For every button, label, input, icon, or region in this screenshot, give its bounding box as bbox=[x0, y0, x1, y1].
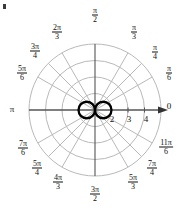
denominator: 3 bbox=[128, 182, 138, 191]
numerator: 5π bbox=[128, 174, 138, 182]
numerator: 2π bbox=[52, 24, 62, 32]
denominator: 4 bbox=[30, 51, 40, 60]
numerator: 11π bbox=[159, 139, 173, 147]
polar-plot-figure: 0 π 2 3 4 π 2 2π 3 3π 4 5π 6 π 3 π 4 π 6… bbox=[0, 0, 188, 210]
angle-label-7pi-4: 7π 4 bbox=[147, 160, 157, 177]
numerator: π bbox=[131, 24, 137, 32]
denominator: 2 bbox=[92, 15, 98, 24]
angle-label-7pi-6: 7π 6 bbox=[18, 140, 28, 157]
polar-axes bbox=[29, 44, 168, 176]
denominator: 6 bbox=[159, 147, 173, 156]
angle-label-3pi-4: 3π 4 bbox=[30, 43, 40, 60]
denominator: 6 bbox=[17, 73, 27, 82]
angle-label-pi: π bbox=[10, 105, 15, 114]
corner-artifact-mark bbox=[3, 4, 6, 9]
denominator: 6 bbox=[166, 73, 172, 82]
numerator: 3π bbox=[30, 43, 40, 51]
radial-tick-label-3: 3 bbox=[127, 115, 132, 124]
angle-label-11pi-6: 11π 6 bbox=[159, 139, 173, 156]
denominator: 2 bbox=[90, 194, 100, 203]
numerator: π bbox=[92, 7, 98, 15]
angle-label-5pi-3: 5π 3 bbox=[128, 174, 138, 191]
numerator: 5π bbox=[32, 160, 42, 168]
numerator: 3π bbox=[90, 186, 100, 194]
radial-tick-label-2: 2 bbox=[110, 115, 115, 124]
angle-label-pi-2: π 2 bbox=[92, 7, 98, 24]
numerator: 7π bbox=[18, 140, 28, 148]
denominator: 3 bbox=[131, 32, 137, 41]
angle-label-pi-3: π 3 bbox=[131, 24, 137, 41]
numerator: 5π bbox=[17, 65, 27, 73]
angle-label-pi-4: π 4 bbox=[152, 44, 158, 61]
denominator: 6 bbox=[18, 148, 28, 157]
angle-label-5pi-6: 5π 6 bbox=[17, 65, 27, 82]
angle-label-4pi-3: 4π 3 bbox=[53, 174, 63, 191]
numerator: 7π bbox=[147, 160, 157, 168]
angle-label-pi-6: π 6 bbox=[166, 65, 172, 82]
angle-label-2pi-3: 2π 3 bbox=[52, 24, 62, 41]
denominator: 4 bbox=[32, 168, 42, 177]
denominator: 4 bbox=[147, 168, 157, 177]
denominator: 3 bbox=[53, 182, 63, 191]
polar-grid-canvas bbox=[0, 0, 188, 210]
numerator: 4π bbox=[53, 174, 63, 182]
angle-label-5pi-4: 5π 4 bbox=[32, 160, 42, 177]
angle-label-3pi-2: 3π 2 bbox=[90, 186, 100, 203]
numerator: π bbox=[152, 44, 158, 52]
angle-label-0: 0 bbox=[167, 102, 172, 111]
numerator: π bbox=[166, 65, 172, 73]
denominator: 4 bbox=[152, 52, 158, 61]
denominator: 3 bbox=[52, 32, 62, 41]
radial-tick-label-4: 4 bbox=[144, 115, 149, 124]
